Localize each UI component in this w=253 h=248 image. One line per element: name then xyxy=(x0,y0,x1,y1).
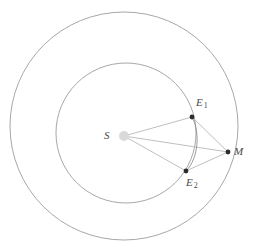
label-mars: M xyxy=(234,146,243,157)
label-earth-position-2-subscript: 2 xyxy=(194,181,198,190)
outer-orbit xyxy=(10,12,238,240)
orbit-group xyxy=(10,12,238,240)
sun-point xyxy=(119,131,129,141)
line-S-E2 xyxy=(124,136,186,171)
earth-position-1-point xyxy=(190,115,195,120)
label-sun: S xyxy=(104,130,110,141)
label-earth-position-1-subscript: 1 xyxy=(204,101,208,110)
mars-point xyxy=(226,150,231,155)
line-S-E1 xyxy=(124,117,192,136)
label-earth-position-2-text: E xyxy=(186,176,193,188)
label-sun-text: S xyxy=(104,129,110,141)
line-S-M xyxy=(124,136,228,152)
label-earth-position-2: E2 xyxy=(186,177,197,188)
diagram-svg xyxy=(0,0,253,248)
label-earth-position-1-text: E xyxy=(196,96,203,108)
sight-line-group xyxy=(124,117,228,171)
label-mars-text: M xyxy=(234,145,243,157)
earth-position-2-point xyxy=(184,169,189,174)
diagram-canvas: S E1 E2 M xyxy=(0,0,253,248)
label-earth-position-1: E1 xyxy=(196,97,207,108)
